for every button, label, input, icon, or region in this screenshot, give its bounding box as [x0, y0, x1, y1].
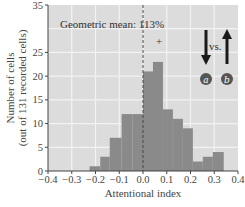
histogram-bar [143, 71, 153, 171]
svg-text:−0.1: −0.1 [110, 174, 129, 185]
svg-text:0.1: 0.1 [160, 174, 173, 185]
peak-marker: + [156, 35, 162, 47]
y-axis-title: Number of cells (out of 131 recorded cel… [4, 29, 29, 146]
histogram-bar [100, 157, 110, 171]
svg-text:−0.3: −0.3 [62, 174, 81, 185]
histogram-bar [110, 138, 122, 171]
svg-text:0.0: 0.0 [136, 174, 149, 185]
svg-text:Number of cells: Number of cells [4, 53, 16, 124]
svg-text:b: b [224, 75, 230, 85]
histogram-bar [213, 152, 224, 171]
svg-text:25: 25 [33, 47, 44, 58]
histogram-chart: −0.4−0.3−0.2−0.10.00.10.20.30.4051015202… [0, 0, 245, 207]
histogram-bar [90, 166, 101, 171]
svg-text:0.3: 0.3 [208, 174, 221, 185]
histogram-bar [193, 162, 203, 171]
svg-text:0: 0 [38, 166, 43, 177]
svg-text:10: 10 [33, 118, 44, 129]
svg-text:0.4: 0.4 [231, 174, 245, 185]
badge-b: b [221, 73, 233, 85]
mean-annotation: Geometric mean: 113% [60, 18, 164, 30]
badge-a: a [200, 73, 212, 85]
histogram-bar [132, 114, 143, 171]
histogram-bar [203, 157, 213, 171]
histogram-bar [183, 128, 193, 171]
svg-text:20: 20 [33, 71, 44, 82]
histogram-bar [163, 109, 173, 171]
x-axis-title: Attentional index [105, 187, 182, 199]
svg-text:0.2: 0.2 [184, 174, 197, 185]
histogram-bar [173, 119, 183, 171]
svg-text:5: 5 [38, 142, 43, 153]
histogram-bar [122, 114, 133, 171]
histogram-bar [153, 62, 163, 171]
svg-text:15: 15 [33, 94, 44, 105]
svg-text:(out of 131 recorded cells): (out of 131 recorded cells) [16, 29, 29, 146]
vs-label: vs. [209, 40, 222, 52]
svg-text:−0.2: −0.2 [86, 174, 105, 185]
svg-text:35: 35 [33, 0, 44, 11]
svg-text:a: a [203, 75, 208, 85]
